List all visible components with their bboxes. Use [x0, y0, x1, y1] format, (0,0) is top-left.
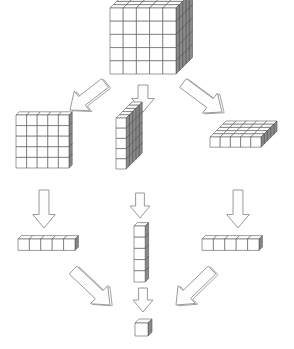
cell-front-face	[27, 126, 38, 137]
cell-front-face	[123, 34, 136, 47]
cell-front-face	[136, 48, 149, 61]
cell-front-face	[52, 239, 63, 250]
cell-front-face	[150, 34, 163, 47]
cell-front-face	[41, 239, 52, 250]
cell-front-face	[48, 126, 59, 137]
cell-front-face	[116, 159, 126, 169]
cell-front-face	[110, 21, 123, 34]
cell-front-face	[27, 115, 38, 126]
cell-front-face	[123, 8, 136, 21]
cell-front-face	[116, 149, 126, 159]
diagram-canvas	[0, 0, 294, 349]
cell-front-face	[37, 157, 48, 168]
cell-front-face	[27, 157, 38, 168]
cell-front-face	[135, 323, 148, 336]
cell-front-face	[58, 136, 69, 147]
cell-side-face	[179, 54, 182, 70]
cell-front-face	[64, 239, 75, 250]
cell-front-face	[134, 226, 145, 237]
cell-front-face	[58, 157, 69, 168]
cell-front-face	[48, 115, 59, 126]
flat-front	[16, 112, 72, 168]
cell-front-face	[136, 8, 149, 21]
cell-front-face	[110, 8, 123, 21]
cell-front-face	[48, 147, 59, 158]
base-block-decomposition-diagram	[0, 0, 294, 349]
cell-front-face	[134, 237, 145, 248]
cell-front-face	[150, 8, 163, 21]
cell-front-face	[29, 239, 40, 250]
cell-front-face	[37, 147, 48, 158]
cell-front-face	[163, 8, 176, 21]
cell-side-face	[189, 44, 192, 61]
cell-front-face	[110, 48, 123, 61]
cell-front-face	[48, 157, 59, 168]
big-cube	[110, 0, 193, 74]
cell-front-face	[251, 137, 261, 147]
cell-front-face	[27, 136, 38, 147]
cell-front-face	[16, 157, 27, 168]
cell-front-face	[123, 61, 136, 74]
cell-front-face	[236, 239, 247, 250]
cell-front-face	[16, 126, 27, 137]
cell-front-face	[58, 126, 69, 137]
cell-front-face	[134, 260, 145, 271]
cell-front-face	[116, 138, 126, 148]
cell-front-face	[16, 115, 27, 126]
cell-front-face	[225, 239, 236, 250]
cell-front-face	[18, 239, 29, 250]
cell-front-face	[230, 137, 240, 147]
cell-front-face	[110, 61, 123, 74]
cell-front-face	[241, 137, 251, 147]
cell-front-face	[116, 118, 126, 128]
cell-front-face	[37, 136, 48, 147]
cell-front-face	[150, 61, 163, 74]
cell-front-face	[123, 21, 136, 34]
cell-front-face	[37, 126, 48, 137]
cell-front-face	[163, 48, 176, 61]
cell-front-face	[58, 147, 69, 158]
cell-front-face	[123, 48, 136, 61]
unit-cube	[135, 319, 152, 336]
cell-front-face	[16, 136, 27, 147]
rod-left	[18, 236, 78, 251]
cell-front-face	[248, 239, 259, 250]
cell-front-face	[58, 115, 69, 126]
cell-front-face	[37, 115, 48, 126]
cell-front-face	[134, 248, 145, 259]
cell-front-face	[213, 239, 224, 250]
cell-front-face	[163, 21, 176, 34]
cell-front-face	[202, 239, 213, 250]
cell-side-face	[186, 48, 189, 65]
cell-side-face	[183, 51, 186, 68]
cell-front-face	[16, 147, 27, 158]
cell-front-face	[134, 271, 145, 282]
cell-front-face	[116, 128, 126, 138]
cell-front-face	[210, 137, 220, 147]
cell-front-face	[220, 137, 230, 147]
cell-front-face	[27, 147, 38, 158]
rod-middle	[134, 223, 149, 282]
rod-right	[202, 236, 262, 251]
cell-front-face	[163, 34, 176, 47]
cell-front-face	[136, 61, 149, 74]
cell-front-face	[136, 34, 149, 47]
cell-front-face	[150, 48, 163, 61]
cell-side-face	[176, 58, 179, 75]
cell-front-face	[150, 21, 163, 34]
cell-front-face	[136, 21, 149, 34]
cell-front-face	[48, 136, 59, 147]
cell-front-face	[110, 34, 123, 47]
cell-front-face	[163, 61, 176, 74]
